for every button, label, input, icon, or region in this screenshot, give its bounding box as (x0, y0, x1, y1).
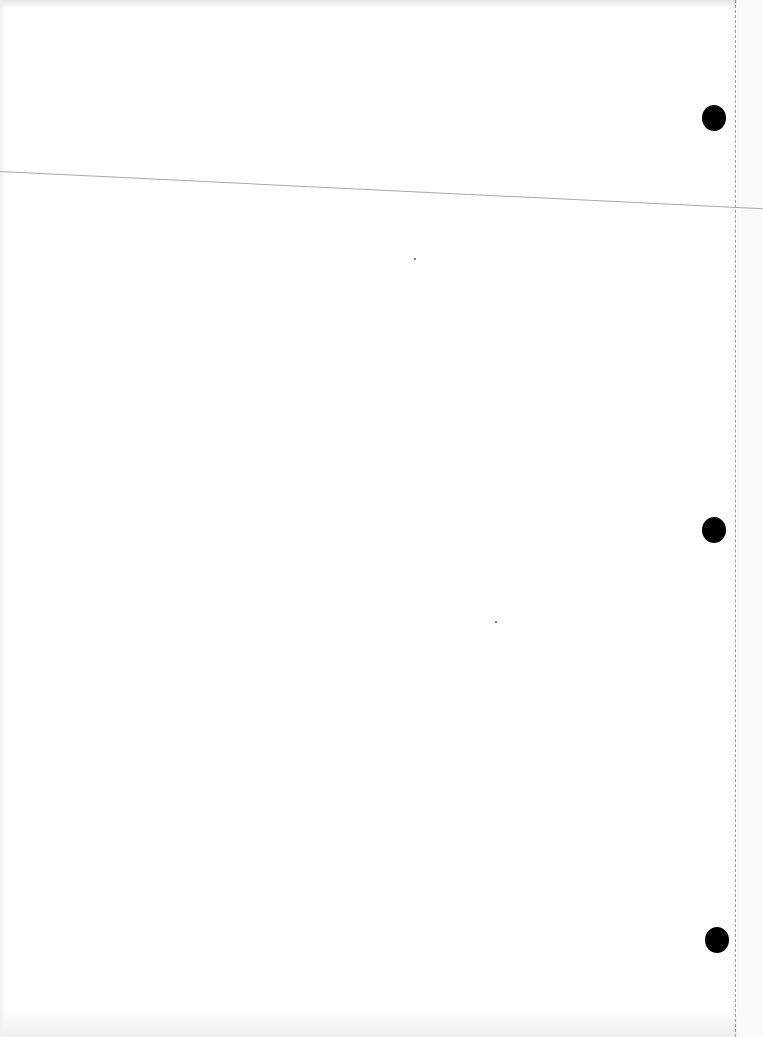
perforated-strip (737, 0, 763, 1037)
scan-shadow-bottom (0, 1007, 763, 1037)
perforation-line (735, 0, 736, 1037)
punch-hole-bottom (705, 927, 729, 953)
scan-shadow-top (0, 0, 763, 8)
punch-hole-top (702, 105, 726, 131)
dust-speck (414, 258, 416, 260)
scan-shadow-left (0, 0, 6, 1037)
horizontal-rule (0, 171, 763, 209)
scanned-page (0, 0, 763, 1037)
punch-hole-middle (702, 517, 726, 543)
dust-speck (495, 621, 497, 623)
